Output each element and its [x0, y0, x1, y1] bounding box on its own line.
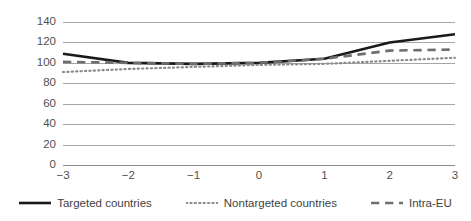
y-axis: 140120100806040200: [4, 22, 56, 165]
legend-label: Nontargeted countries: [224, 197, 337, 210]
x-tick-label: 2: [370, 169, 410, 182]
gridline-0: [63, 165, 455, 166]
legend-swatch-icon: [186, 198, 218, 208]
legend-swatch-icon: [371, 198, 403, 208]
y-tick-label: 120: [10, 36, 56, 48]
plot-area: [63, 22, 455, 165]
legend-swatch-icon: [19, 198, 51, 208]
legend-item[interactable]: Nontargeted countries: [186, 197, 337, 210]
chart-legend: Targeted countriesNontargeted countriesI…: [0, 193, 471, 213]
y-tick-label: 100: [10, 57, 56, 69]
x-tick-label: −1: [174, 169, 214, 182]
y-tick-label: 60: [10, 98, 56, 110]
legend-label: Intra-EU: [409, 197, 452, 210]
y-tick-label: 40: [10, 118, 56, 130]
x-tick-label: −2: [108, 169, 148, 182]
x-tick-label: 0: [239, 169, 279, 182]
y-tick-label: 140: [10, 16, 56, 28]
x-tick-label: 3: [435, 169, 471, 182]
line-chart: 140120100806040200 −3−2−10123 Targeted c…: [0, 0, 471, 221]
y-tick-label: 80: [10, 77, 56, 89]
x-tick-label: −3: [43, 169, 83, 182]
legend-label: Targeted countries: [57, 197, 152, 210]
legend-item[interactable]: Targeted countries: [19, 197, 152, 210]
x-tick-label: 1: [304, 169, 344, 182]
series-layer: [63, 22, 455, 165]
series-line: [63, 34, 455, 64]
x-axis: −3−2−10123: [63, 169, 455, 187]
y-tick-label: 20: [10, 139, 56, 151]
legend-item[interactable]: Intra-EU: [371, 197, 452, 210]
series-line: [63, 58, 455, 72]
